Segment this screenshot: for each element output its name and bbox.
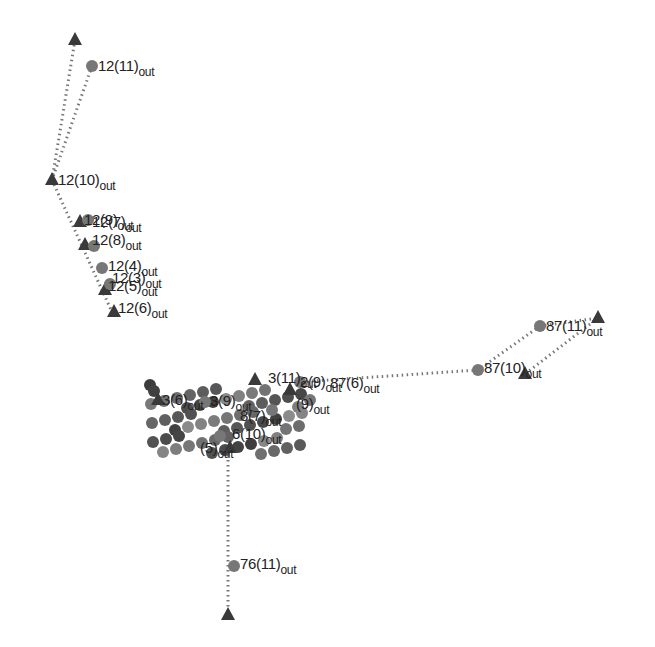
cluster-node bbox=[182, 421, 194, 433]
circle-node bbox=[86, 60, 98, 72]
node-label: 76(11)out bbox=[240, 556, 296, 576]
cluster-node bbox=[157, 446, 169, 458]
cluster-node bbox=[283, 410, 295, 422]
circle-node bbox=[228, 560, 240, 572]
cluster-node bbox=[195, 418, 207, 430]
triangle-node bbox=[221, 607, 235, 620]
cluster-node bbox=[255, 448, 267, 460]
node-label: 87(10)out bbox=[484, 360, 541, 380]
edge bbox=[52, 40, 75, 180]
circle-node bbox=[534, 320, 546, 332]
cluster-node bbox=[294, 439, 306, 451]
node-label: 87(11)out bbox=[546, 318, 602, 338]
triangle-node bbox=[68, 32, 82, 45]
cluster-node bbox=[208, 415, 220, 427]
edge bbox=[52, 66, 92, 180]
triangle-node bbox=[45, 172, 59, 185]
node-label: 12(6)out bbox=[118, 300, 167, 320]
node-label: 12(3)out bbox=[112, 270, 161, 290]
node-label: 3(6)out bbox=[162, 392, 203, 412]
node-label: (5)out bbox=[200, 440, 233, 460]
node-label: 12(10)out bbox=[58, 172, 115, 192]
node-label: 2(9)out bbox=[300, 374, 341, 394]
node-label: (9)out bbox=[296, 396, 329, 416]
node-label: 12(8)out bbox=[92, 232, 141, 252]
cluster-node bbox=[183, 440, 195, 452]
cluster-node bbox=[293, 420, 305, 432]
cluster-node bbox=[172, 411, 184, 423]
node-label: 12(11)out bbox=[98, 58, 154, 78]
cluster-node bbox=[170, 443, 182, 455]
cluster-node bbox=[173, 430, 185, 442]
cluster-node bbox=[221, 412, 233, 424]
node-label: 6(10)out bbox=[232, 426, 281, 446]
cluster-node bbox=[147, 436, 159, 448]
cluster-node bbox=[280, 423, 292, 435]
cluster-node bbox=[159, 414, 171, 426]
cluster-node bbox=[146, 417, 158, 429]
cluster-node bbox=[160, 433, 172, 445]
triangle-node bbox=[248, 372, 262, 385]
circle-node bbox=[96, 262, 108, 274]
circle-node bbox=[472, 364, 484, 376]
cluster-node bbox=[281, 442, 293, 454]
